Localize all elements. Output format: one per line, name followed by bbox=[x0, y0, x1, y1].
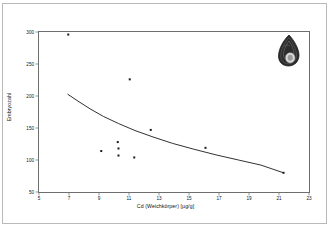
y-tick-label: 100 bbox=[20, 158, 34, 163]
x-tick-label: 9 bbox=[98, 196, 101, 201]
y-tick-label: 200 bbox=[20, 94, 34, 99]
x-axis-title: Cd (Weichkörper) [µg/g] bbox=[0, 203, 331, 209]
x-tick-label: 21 bbox=[276, 196, 281, 201]
scatter-chart: 5791113151719212350100150200250300 Cd (W… bbox=[0, 0, 331, 228]
x-tick-label: 7 bbox=[68, 196, 71, 201]
y-tick-label: 50 bbox=[20, 190, 34, 195]
x-tick-label: 13 bbox=[156, 196, 161, 201]
x-tick-label: 23 bbox=[306, 196, 311, 201]
y-tick-label: 300 bbox=[20, 30, 34, 35]
y-tick-label: 250 bbox=[20, 62, 34, 67]
snail-shell-illustration-icon bbox=[275, 34, 303, 67]
x-tick-label: 15 bbox=[186, 196, 191, 201]
x-tick-label: 5 bbox=[38, 196, 41, 201]
x-tick-label: 19 bbox=[246, 196, 251, 201]
y-axis-title: Embryozahl bbox=[6, 84, 12, 130]
y-tick-label: 150 bbox=[20, 126, 34, 131]
figure-page: 5791113151719212350100150200250300 Cd (W… bbox=[0, 0, 331, 228]
x-tick-label: 17 bbox=[216, 196, 221, 201]
x-tick-label: 11 bbox=[127, 196, 132, 201]
